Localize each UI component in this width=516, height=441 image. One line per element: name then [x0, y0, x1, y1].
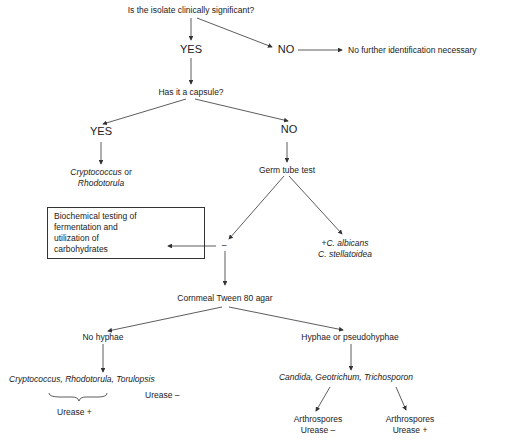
genera-hyphae: Candida, Geotrichum, Trichosporon — [279, 372, 413, 383]
biochem-line-2: fermentation and — [54, 222, 198, 233]
no-hyphae: No hyphae — [82, 332, 123, 343]
answer-no-1: NO — [278, 44, 295, 55]
answer-yes-1: YES — [180, 44, 202, 55]
rhodotorula-label: Rhodotorula — [78, 178, 124, 188]
arthrospores-urease-negative: Arthrospores Urease – — [294, 414, 343, 436]
arthrospores-urease-positive: Arthrospores Urease + — [386, 414, 435, 436]
biochemical-testing-box: Biochemical testing of fermentation and … — [47, 207, 205, 259]
cryptococcus-label: Cryptococcus — [70, 167, 122, 177]
cornmeal-tween-agar: Cornmeal Tween 80 agar — [177, 293, 272, 304]
c-stellatoidea-label: C. stellatoidea — [318, 249, 372, 259]
cryptococcus-or-rhodotorula: Cryptococcus or Rhodotorula — [70, 167, 131, 189]
biochem-line-1: Biochemical testing of — [54, 211, 198, 222]
c-albicans-label: C. albicans — [326, 238, 368, 248]
hyphae-or-pseudohyphae: Hyphae or pseudohyphae — [301, 332, 398, 343]
biochem-line-3: utilization of — [54, 233, 198, 244]
no-further-identification: No further identification necessary — [348, 45, 477, 56]
answer-no-2: NO — [281, 124, 298, 135]
positive-candida-species: +C. albicans C. stellatoidea — [318, 238, 372, 260]
urease-positive-label: Urease + — [393, 425, 428, 435]
biochem-line-4: carbohydrates — [54, 244, 198, 255]
urease-negative-torulopsis: Urease – — [145, 390, 180, 401]
negative-result: – — [222, 240, 227, 251]
germ-tube-test: Germ tube test — [259, 165, 315, 176]
answer-yes-2: YES — [90, 126, 112, 137]
arthrospores-label-2: Arthrospores — [386, 414, 435, 424]
urease-negative-label: Urease – — [301, 425, 336, 435]
question-capsule: Has it a capsule? — [158, 87, 223, 98]
urease-positive-crypto-rhodo: Urease + — [57, 407, 92, 418]
or-label: or — [122, 167, 132, 177]
question-clinically-significant: Is the isolate clinically significant? — [128, 5, 255, 16]
arthrospores-label-1: Arthrospores — [294, 414, 343, 424]
genera-no-hyphae: Cryptococcus, Rhodotorula, Torulopsis — [9, 374, 155, 385]
